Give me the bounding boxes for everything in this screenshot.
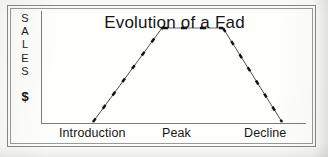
chart-screenshot: S A L E S $ Evolution of a Fad — [0, 0, 328, 157]
x-axis-tick-introduction: Introduction — [59, 126, 126, 140]
x-axis-labels: Introduction Peak Decline — [41, 126, 312, 143]
y-axis-letter-a: A — [21, 25, 28, 38]
plot-area: Evolution of a Fad — [41, 11, 306, 124]
x-axis-tick-decline: Decline — [244, 126, 286, 140]
y-axis-currency-symbol: $ — [21, 90, 28, 104]
curve-segment-rise — [93, 28, 162, 122]
x-axis-tick-peak: Peak — [162, 126, 191, 140]
y-axis-letter-s2: S — [21, 65, 28, 78]
y-axis-letter-s1: S — [21, 12, 28, 25]
y-axis-letter-l: L — [22, 38, 28, 51]
curve-segment-decline — [223, 28, 282, 122]
chart-title: Evolution of a Fad — [42, 13, 307, 33]
y-axis-letter-e: E — [21, 52, 28, 65]
y-axis-label: S A L E S $ — [12, 12, 38, 124]
